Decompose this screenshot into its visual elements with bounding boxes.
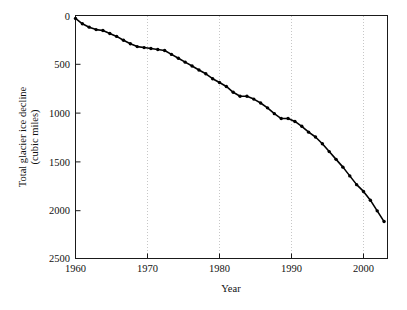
data-point [149, 47, 152, 50]
y-tick-label-0: 0 [65, 11, 70, 22]
x-tick-label-2000: 2000 [353, 263, 374, 274]
x-tick-label-1990: 1990 [281, 263, 302, 274]
data-point [238, 94, 241, 97]
data-point [129, 42, 132, 45]
y-axis-title: Total glacier ice decline (cubic miles) [17, 86, 41, 187]
data-point [259, 101, 262, 104]
data-point [355, 183, 358, 186]
y-axis-title-line2: (cubic miles) [29, 109, 41, 165]
data-point [163, 49, 166, 52]
x-axis-title: Year [221, 283, 241, 294]
y-tick-label-500: 500 [54, 59, 70, 70]
data-point [211, 77, 214, 80]
data-point [362, 190, 365, 193]
data-point [300, 125, 303, 128]
y-tickmarks [76, 16, 81, 259]
y-tick-label-1500: 1500 [49, 157, 70, 168]
data-point [184, 60, 187, 63]
plot-frame [76, 16, 388, 259]
x-tick-labels: 1960 1970 1980 1990 2000 [65, 263, 374, 274]
data-point [245, 94, 248, 97]
data-point [94, 28, 97, 31]
data-point [341, 165, 344, 168]
y-tick-label-1000: 1000 [49, 108, 70, 119]
data-point [280, 117, 283, 120]
gridlines-vertical [76, 16, 364, 258]
y-axis-title-line1: Total glacier ice decline [17, 86, 28, 187]
data-point [376, 209, 379, 212]
data-point [293, 120, 296, 123]
data-point [122, 39, 125, 42]
data-point [382, 220, 385, 223]
data-point [321, 142, 324, 145]
x-tick-label-1980: 1980 [209, 263, 230, 274]
chart-page: 0 500 1000 1500 2000 2500 1960 1970 1980… [0, 0, 407, 310]
series-line [76, 18, 385, 221]
data-point [328, 150, 331, 153]
data-point [190, 64, 193, 67]
data-point [273, 112, 276, 115]
data-point [218, 81, 221, 84]
data-point [252, 97, 255, 100]
data-point [314, 135, 317, 138]
data-point [74, 17, 77, 20]
data-point [142, 46, 145, 49]
data-point [225, 85, 228, 88]
data-point [204, 72, 207, 75]
x-tick-label-1970: 1970 [137, 263, 158, 274]
data-point [334, 158, 337, 161]
data-point [136, 45, 139, 48]
y-tick-labels: 0 500 1000 1500 2000 2500 [49, 11, 70, 265]
series-markers [74, 17, 386, 224]
data-point [348, 174, 351, 177]
data-point [197, 68, 200, 71]
glacier-ice-decline-chart: 0 500 1000 1500 2000 2500 1960 1970 1980… [0, 0, 407, 310]
data-series [74, 17, 386, 224]
data-point [170, 53, 173, 56]
data-point [115, 35, 118, 38]
data-point [88, 25, 91, 28]
data-point [266, 106, 269, 109]
data-point [369, 198, 372, 201]
data-point [307, 130, 310, 133]
data-point [101, 29, 104, 32]
data-point [156, 48, 159, 51]
data-point [286, 117, 289, 120]
data-point [81, 22, 84, 25]
data-point [108, 32, 111, 35]
data-point [232, 91, 235, 94]
x-tick-label-1960: 1960 [65, 263, 86, 274]
x-tickmarks [76, 254, 364, 259]
y-tick-label-2000: 2000 [49, 205, 70, 216]
data-point [177, 57, 180, 60]
